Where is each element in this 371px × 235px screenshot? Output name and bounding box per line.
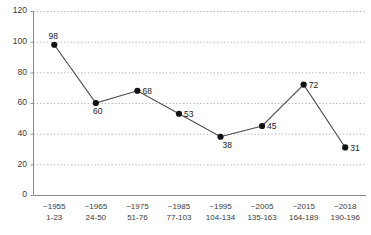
x-axis-tick-label: ~1955	[43, 202, 66, 211]
x-axis-tick-label: ~2005	[251, 202, 274, 211]
y-axis-tick-label: 20	[18, 159, 28, 169]
x-axis-tick-sublabel: 104-134	[206, 213, 236, 222]
data-line	[54, 45, 345, 148]
cut-off-caption	[0, 229, 371, 235]
data-point-marker	[259, 123, 265, 129]
x-axis-tick-sublabel: 51-76	[127, 213, 148, 222]
data-point-marker	[51, 42, 57, 48]
y-axis-tick-label: 60	[18, 97, 28, 107]
y-axis-tick-label: 40	[18, 128, 28, 138]
x-axis-tick-sublabel: 24-50	[86, 213, 107, 222]
x-axis-tick-label: ~1995	[209, 202, 232, 211]
data-point-value-label: 98	[49, 31, 59, 41]
x-axis-tick-labels: ~19551-23~196524-50~197551-76~198577-103…	[43, 202, 360, 222]
x-axis-tick-sublabel: 164-189	[289, 213, 319, 222]
data-point-marker	[342, 144, 348, 150]
data-point-value-label: 72	[309, 80, 319, 90]
x-axis-tick-label: ~2015	[292, 202, 315, 211]
line-chart: 020406080100120 9860685338457231 ~19551-…	[0, 0, 371, 235]
series-line	[54, 45, 345, 148]
x-axis-tick-sublabel: 135-163	[247, 213, 277, 222]
x-axis-tick-label: ~1965	[85, 202, 108, 211]
data-point-marker	[134, 88, 140, 94]
data-point-value-label: 68	[142, 86, 152, 96]
x-axis-tick-label: ~2018	[334, 202, 357, 211]
data-point-marker	[301, 82, 307, 88]
y-axis-tick-label: 120	[13, 5, 27, 15]
data-point-value-label: 31	[350, 143, 360, 153]
data-point-value-label: 53	[184, 109, 194, 119]
x-axis-tick-sublabel: 190-196	[331, 213, 361, 222]
y-axis-tick-label: 0	[22, 189, 27, 199]
data-point-value-label: 60	[93, 106, 103, 116]
x-axis-tick-sublabel: 77-103	[167, 213, 192, 222]
x-axis-tick-sublabel: 1-23	[46, 213, 63, 222]
chart-canvas: 020406080100120 9860685338457231 ~19551-…	[0, 0, 371, 235]
data-point-value-label: 38	[223, 140, 233, 150]
y-axis-tick-label: 100	[13, 36, 27, 46]
x-axis-tick-label: ~1985	[168, 202, 191, 211]
x-axis-tick-label: ~1975	[126, 202, 149, 211]
y-axis-tick-labels: 020406080100120	[13, 5, 34, 199]
data-point-marker	[176, 111, 182, 117]
data-point-value-label: 45	[267, 121, 277, 131]
y-axis-tick-label: 80	[18, 67, 28, 77]
